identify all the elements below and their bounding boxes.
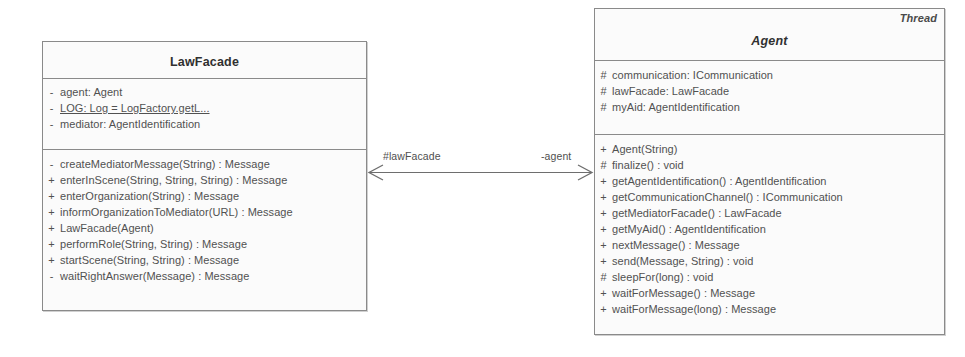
uml-diagram-canvas: LawFacade - agent: Agent - LOG: Log = Lo… — [0, 0, 965, 357]
association-role-target: -agent — [541, 150, 571, 162]
association-connector[interactable] — [369, 165, 592, 180]
association-role-source: #lawFacade — [383, 150, 441, 162]
association-layer — [0, 0, 965, 357]
